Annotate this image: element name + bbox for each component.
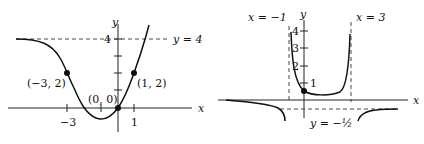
point-neg3-2 [64, 70, 70, 76]
point-neg3-2-label: (−3, 2) [27, 77, 66, 90]
right-y-tick-1-label: 1 [310, 77, 317, 90]
right-y-intercept-point [301, 88, 307, 94]
right-graph: y x 4 3 2 1 x = −1 x = 3 y = −½ [218, 8, 420, 130]
right-y-axis-label: y [299, 8, 307, 21]
right-middle-branch [291, 32, 350, 95]
left-x-tick-neg3-label: −3 [60, 116, 76, 129]
left-y-tick-4-label: 4 [104, 33, 111, 46]
left-asymptote-label: y = 4 [172, 33, 202, 46]
right-asymptote-left-label: x = −1 [248, 11, 287, 24]
point-1-2-label: (1, 2) [137, 77, 167, 90]
left-y-axis-label: y [111, 16, 119, 29]
right-y-tick-3-label: 3 [292, 42, 299, 55]
right-x-axis-label: x [413, 94, 420, 107]
right-asymptote-right-label: x = 3 [356, 11, 385, 24]
figure: y x 4 y = 4 (−3, 2) (1, 2) (0, 0) −3 1 [0, 0, 424, 144]
left-x-tick-1-label: 1 [131, 116, 138, 129]
right-left-branch [226, 100, 285, 121]
point-origin-label: (0, 0) [88, 93, 118, 106]
right-y-tick-2-label: 2 [292, 60, 299, 73]
right-horizontal-asymptote-label: y = −½ [309, 117, 352, 130]
point-1-2 [131, 70, 137, 76]
left-graph: y x 4 y = 4 (−3, 2) (1, 2) (0, 0) −3 1 [8, 16, 205, 132]
right-y-tick-4-label: 4 [292, 25, 299, 38]
left-x-axis-label: x [198, 102, 205, 115]
right-right-branch [358, 109, 398, 121]
